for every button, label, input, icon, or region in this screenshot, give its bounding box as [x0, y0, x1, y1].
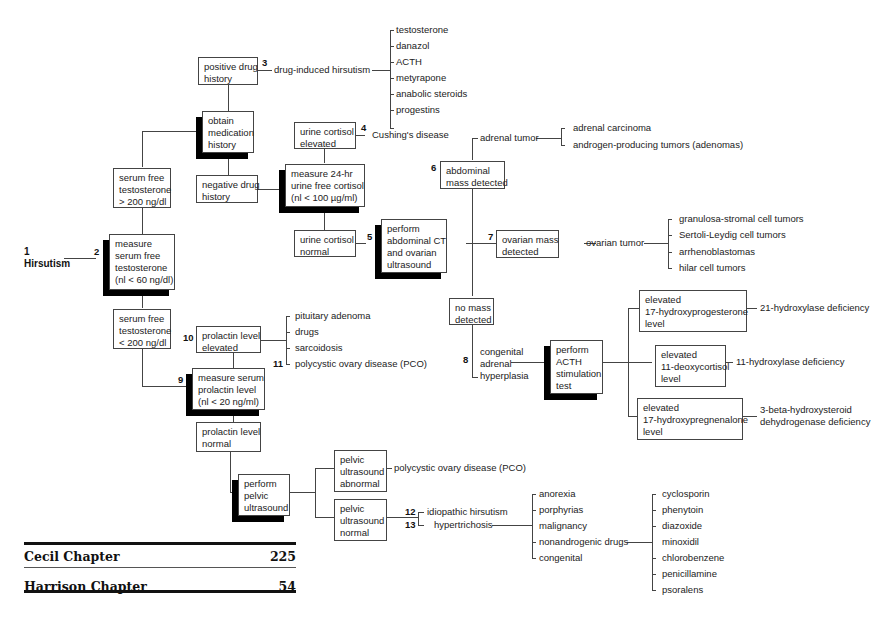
ovarian-type-item: granulosa-stromal cell tumors	[679, 213, 804, 225]
obtain-medication-box[interactable]: obtain medication history	[202, 111, 254, 153]
hirsutism-flowchart: 1 Hirsutism 2 measure serum free testost…	[0, 0, 891, 629]
nonandrogenic-drug-item: minoxidil	[662, 536, 699, 548]
drug-induced-label: drug-induced hirsutism	[274, 64, 370, 76]
low-testosterone-box[interactable]: serum free testosterone < 200 ng/dl	[113, 309, 171, 349]
ovarian-mass-box[interactable]: ovarian mass detected	[496, 230, 559, 258]
nonandrogenic-drug-item: cyclosporin	[662, 488, 710, 500]
step-number: 10	[183, 332, 194, 344]
elevated-17ohpreg-box[interactable]: elevated 17-hydroxypregnenalone level	[637, 398, 743, 440]
drug-list-item: metyrapone	[396, 72, 446, 84]
nonandrogenic-drug-item: psoralens	[662, 584, 703, 596]
adrenal-type-item: adrenal carcinoma	[573, 122, 651, 134]
drug-list-item: anabolic steroids	[396, 88, 467, 100]
cah-label: congenital adrenal hyperplasia	[480, 346, 529, 382]
nonandrogenic-drug-item: chlorobenzene	[662, 552, 724, 564]
step-number: 6	[431, 162, 436, 174]
hypertrichosis-cause-item: nonandrogenic drugs	[539, 536, 628, 548]
deficiency-3b-label: 3-beta-hydroxysteroid dehydrogenase defi…	[760, 404, 870, 428]
adrenal-tumor-label: adrenal tumor	[480, 132, 539, 144]
start-number: 1	[24, 246, 70, 258]
nonandrogenic-drug-item: phenytoin	[662, 504, 703, 516]
nonandrogenic-drug-item: diazoxide	[662, 520, 702, 532]
elevated-17ohp-box[interactable]: elevated 17-hydroxyprogesterone level	[639, 290, 747, 332]
deficiency-21-label: 21-hydroxylase deficiency	[760, 302, 869, 314]
hypertrichosis-cause-item: congenital	[539, 552, 582, 564]
ovarian-tumor-label: ovarian tumor	[586, 237, 644, 249]
perform-ct-box[interactable]: perform abdominal CT and ovarian ultraso…	[381, 219, 447, 273]
step-number: 9	[178, 374, 183, 386]
cushings-label: Cushing's disease	[372, 129, 449, 141]
ovarian-type-item: Sertoli-Leydig cell tumors	[679, 229, 786, 241]
measure-cortisol-box[interactable]: measure 24-hr urine free cortisol (nl < …	[285, 164, 365, 207]
prolactin-cause-item: sarcoidosis	[295, 342, 343, 354]
ovarian-type-item: arrhenoblastomas	[679, 246, 755, 258]
idiopathic-label: idiopathic hirsutism	[427, 506, 508, 518]
drug-list-item: danazol	[396, 40, 429, 52]
prolactin-normal-box[interactable]: prolactin level normal	[196, 422, 261, 452]
step-number: 12	[405, 506, 416, 518]
start-label: Hirsutism	[24, 258, 70, 270]
step-number: 7	[488, 231, 493, 243]
negative-drug-box[interactable]: negative drug history	[196, 175, 258, 203]
reference-mid-rule	[24, 567, 296, 568]
step-number: 13	[405, 519, 416, 531]
step-number: 11	[273, 358, 283, 370]
hypertrichosis-label: hypertrichosis	[434, 519, 493, 531]
hypertrichosis-cause-item: anorexia	[539, 488, 575, 500]
reference-row-harrison: Harrison Chapter 54	[24, 575, 296, 597]
abdominal-mass-box[interactable]: abdominal mass detected	[440, 161, 505, 189]
prolactin-elevated-box[interactable]: prolactin level elevated	[196, 326, 261, 353]
drug-list-item: progestins	[396, 104, 440, 116]
deficiency-11-label: 11-hydroxylase deficiency	[736, 356, 845, 368]
adrenal-type-item: androgen-producing tumors (adenomas)	[573, 139, 743, 151]
drug-list-item: testosterone	[396, 24, 448, 36]
no-mass-box[interactable]: no mass detected	[449, 298, 494, 325]
hypertrichosis-cause-item: porphyrias	[539, 504, 583, 516]
start-node: 1 Hirsutism	[24, 246, 70, 270]
step-number: 4	[361, 122, 366, 134]
elevated-11doc-box[interactable]: elevated 11-deoxycortisol level	[655, 345, 726, 387]
measure-testosterone-box[interactable]: measure serum free testosterone (nl < 60…	[109, 234, 175, 290]
step-number: 8	[463, 354, 468, 366]
prolactin-cause-item: drugs	[295, 326, 319, 338]
pelvic-abnormal-box[interactable]: pelvic ultrasound abnormal	[334, 450, 387, 492]
prolactin-cause-item: polycystic ovary disease (PCO)	[295, 358, 427, 370]
drug-list-item: ACTH	[396, 56, 422, 68]
pelvic-ultrasound-box[interactable]: perform pelvic ultrasound	[238, 474, 290, 516]
hypertrichosis-cause-item: malignancy	[539, 520, 587, 532]
ovarian-type-item: hilar cell tumors	[679, 262, 746, 274]
cortisol-normal-box[interactable]: urine cortisol normal	[294, 230, 356, 257]
pelvic-normal-box[interactable]: pelvic ultrasound normal	[334, 499, 387, 541]
reference-bottom-rule	[24, 590, 296, 593]
step-number: 5	[367, 231, 372, 243]
measure-prolactin-box[interactable]: measure serum prolactin level (nl < 20 n…	[192, 368, 265, 410]
cortisol-elevated-box[interactable]: urine cortisol elevated	[294, 122, 356, 149]
step-number: 3	[262, 57, 267, 69]
prolactin-cause-item: pituitary adenoma	[295, 310, 371, 322]
acth-test-box[interactable]: perform ACTH stimulation test	[550, 340, 603, 394]
step-number: 2	[94, 246, 99, 258]
pco-label: polycystic ovary disease (PCO)	[394, 462, 526, 474]
positive-drug-box[interactable]: positive drug history	[198, 57, 258, 85]
high-testosterone-box[interactable]: serum free testosterone > 200 ng/dl	[113, 168, 171, 208]
nonandrogenic-drug-item: penicillamine	[662, 568, 717, 580]
reference-row-cecil: Cecil Chapter 225	[24, 545, 296, 567]
